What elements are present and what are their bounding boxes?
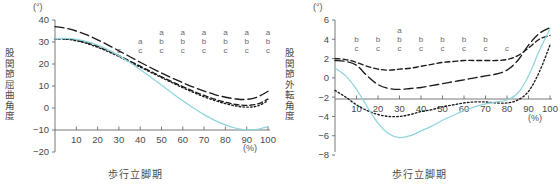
annotation-stack: b c bbox=[373, 35, 383, 53]
svg-text:10: 10 bbox=[38, 80, 49, 91]
annotation-stack: b c bbox=[416, 35, 426, 53]
annotation-stack: c bbox=[114, 46, 124, 55]
figure-container: (°) 股関節屈曲角度 歩行立脚期 (%) 403020100−10−20 10… bbox=[0, 0, 560, 189]
annotation-stack: a c bbox=[135, 37, 145, 55]
svg-text:2: 2 bbox=[324, 53, 329, 64]
svg-text:0: 0 bbox=[324, 72, 329, 83]
left-chart-svg: 403020100−10−20 102030405060708090100 bbox=[0, 0, 280, 189]
chart-panel-left: (°) 股関節屈曲角度 歩行立脚期 (%) 403020100−10−20 10… bbox=[0, 0, 280, 189]
annotation-stack: a b c bbox=[157, 28, 167, 56]
svg-text:80: 80 bbox=[502, 103, 513, 114]
annotation-stack: a b c bbox=[395, 26, 405, 54]
annotation-stack: a b c bbox=[178, 28, 188, 56]
svg-text:0: 0 bbox=[44, 102, 49, 113]
svg-text:30: 30 bbox=[114, 134, 125, 145]
annotation-stack: a b c bbox=[199, 28, 209, 56]
svg-text:30: 30 bbox=[394, 103, 405, 114]
annotation-stack: a b c bbox=[220, 28, 230, 56]
annotation-stack: c bbox=[502, 44, 512, 53]
svg-text:−10: −10 bbox=[33, 124, 49, 135]
svg-text:20: 20 bbox=[92, 134, 103, 145]
annotation-stack: b c bbox=[352, 35, 362, 53]
left-y-ticks: 403020100−10−20 bbox=[33, 14, 55, 157]
annotation-stack: b c bbox=[481, 35, 491, 53]
svg-text:10: 10 bbox=[71, 134, 82, 145]
svg-text:4: 4 bbox=[324, 34, 329, 45]
right-chart-svg: 6420−2−4−6−8 102030405060708090100 bbox=[280, 0, 560, 189]
svg-text:80: 80 bbox=[220, 134, 231, 145]
svg-text:70: 70 bbox=[199, 134, 210, 145]
svg-text:90: 90 bbox=[523, 103, 534, 114]
svg-text:20: 20 bbox=[38, 58, 49, 69]
svg-text:−4: −4 bbox=[318, 111, 329, 122]
svg-text:60: 60 bbox=[178, 134, 189, 145]
chart-panel-right: (°) 股関節外転角度 歩行立脚期 (%) 6420−2−4−6−8 10203… bbox=[280, 0, 560, 189]
svg-text:30: 30 bbox=[38, 36, 49, 47]
annotation-stack: a b c bbox=[263, 28, 273, 56]
svg-text:−8: −8 bbox=[318, 149, 329, 160]
svg-text:−2: −2 bbox=[318, 92, 329, 103]
svg-text:100: 100 bbox=[542, 103, 558, 114]
svg-text:40: 40 bbox=[135, 134, 146, 145]
svg-text:−6: −6 bbox=[318, 130, 329, 141]
svg-text:20: 20 bbox=[373, 103, 384, 114]
svg-text:−20: −20 bbox=[33, 146, 49, 157]
svg-text:10: 10 bbox=[351, 103, 362, 114]
svg-text:40: 40 bbox=[38, 14, 49, 25]
right-y-ticks: 6420−2−4−6−8 bbox=[318, 14, 335, 160]
svg-text:50: 50 bbox=[156, 134, 167, 145]
annotation-stack: b c bbox=[459, 35, 469, 53]
svg-text:6: 6 bbox=[324, 14, 329, 25]
svg-text:90: 90 bbox=[241, 134, 252, 145]
annotation-stack: a b c bbox=[242, 28, 252, 56]
svg-text:100: 100 bbox=[260, 134, 276, 145]
annotation-stack: b c bbox=[438, 35, 448, 53]
